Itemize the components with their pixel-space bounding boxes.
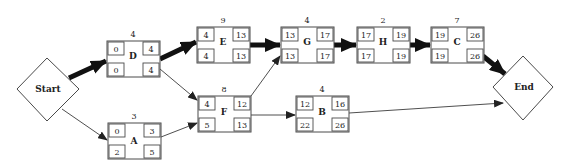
early-finish: 17 (320, 31, 330, 40)
duration: 4 (130, 30, 135, 39)
late-start: 13 (285, 52, 295, 61)
early-finish: 26 (470, 31, 480, 40)
early-finish: 12 (237, 100, 247, 109)
early-start: 12 (300, 100, 310, 109)
late-start: 22 (300, 121, 310, 130)
late-finish: 13 (236, 52, 246, 61)
start-label: Start (35, 84, 61, 94)
early-finish: 16 (335, 100, 345, 109)
late-start: 19 (435, 52, 445, 61)
network-diagram: Start End 4 0 4 0 4 D 3 0 3 2 5 A 9 (0, 0, 570, 167)
activity-name: F (221, 107, 228, 117)
late-start: 5 (204, 121, 209, 130)
late-start: 2 (114, 148, 119, 157)
activity-e: 9 4 13 4 13 E (197, 16, 250, 64)
duration: 8 (221, 85, 226, 94)
activity-name: E (220, 37, 227, 47)
activity-g: 4 13 17 13 17 G (281, 16, 334, 64)
early-finish: 19 (396, 31, 406, 40)
early-finish: 13 (236, 31, 246, 40)
end-node: End (493, 56, 553, 120)
early-start: 13 (285, 31, 295, 40)
late-finish: 19 (396, 52, 406, 61)
duration: 7 (454, 16, 459, 25)
activity-name: D (129, 51, 137, 61)
activity-d: 4 0 4 0 4 D (107, 30, 160, 78)
late-start: 0 (113, 66, 118, 75)
duration: 3 (131, 112, 136, 121)
activity-name: B (318, 107, 326, 117)
late-start: 17 (361, 52, 371, 61)
activity-name: G (303, 37, 311, 47)
duration: 9 (220, 16, 225, 25)
early-finish: 3 (149, 127, 154, 136)
activity-name: H (379, 37, 388, 47)
activity-name: A (130, 136, 139, 146)
early-start: 19 (435, 31, 445, 40)
early-start: 0 (114, 127, 119, 136)
late-finish: 13 (237, 121, 247, 130)
early-start: 0 (113, 45, 118, 54)
edge-a-f (161, 123, 197, 137)
duration: 4 (304, 16, 309, 25)
early-start: 4 (204, 100, 209, 109)
edge-b-end (349, 103, 503, 113)
early-finish: 4 (148, 45, 153, 54)
activity-a: 3 0 3 2 5 A (108, 112, 161, 160)
late-finish: 26 (470, 52, 480, 61)
edge-start-a (62, 109, 107, 140)
early-start: 17 (361, 31, 371, 40)
end-label: End (514, 82, 534, 92)
activity-b: 4 12 16 22 26 B (296, 85, 349, 133)
activity-h: 2 17 19 17 19 H (357, 16, 410, 64)
late-finish: 26 (335, 121, 345, 130)
early-start: 4 (203, 31, 208, 40)
activity-c: 7 19 26 19 26 C (431, 16, 484, 64)
duration: 4 (319, 85, 324, 94)
late-start: 4 (203, 52, 208, 61)
activity-name: C (453, 37, 460, 47)
activity-f: 8 4 12 5 13 F (198, 85, 251, 133)
edge-d-f (160, 69, 197, 100)
edge-f-g (251, 56, 280, 96)
edge-start-d (69, 61, 106, 78)
late-finish: 4 (148, 66, 153, 75)
edge-d-e (160, 42, 196, 59)
duration: 2 (380, 16, 385, 25)
late-finish: 17 (320, 52, 330, 61)
late-finish: 5 (149, 148, 154, 157)
edge-c-end (483, 56, 505, 74)
start-node: Start (17, 58, 79, 121)
